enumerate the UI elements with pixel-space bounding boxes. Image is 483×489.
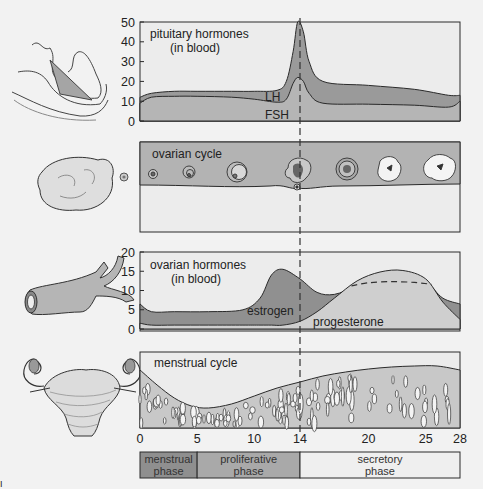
- gland: [139, 395, 141, 405]
- y-tick-label: 10: [121, 95, 135, 109]
- phase-sublabel: phase: [234, 465, 264, 477]
- ovarian-cycle-panel: ovarian cycle: [38, 142, 460, 232]
- gland: [164, 398, 167, 405]
- gland: [341, 387, 344, 406]
- y-tick-label: 5: [128, 303, 135, 317]
- x-tick-label: 28: [453, 432, 467, 446]
- lh-label: LH: [265, 90, 280, 104]
- phase-label: menstrual: [144, 453, 192, 465]
- gland: [250, 407, 255, 414]
- gland: [172, 407, 175, 419]
- phase-menstrual: menstrualphase: [140, 452, 197, 478]
- ovary-icon: [38, 157, 128, 210]
- y-tick-label: 20: [121, 246, 135, 260]
- y-tick-label: 0: [128, 323, 135, 337]
- gland: [370, 387, 374, 393]
- gland: [192, 416, 196, 427]
- gland: [207, 412, 212, 423]
- gland: [180, 402, 185, 414]
- gland: [265, 402, 269, 408]
- gland: [444, 383, 448, 396]
- gland: [399, 397, 402, 412]
- gland: [372, 394, 376, 404]
- x-tick-label: 5: [194, 432, 201, 446]
- gland: [387, 404, 392, 413]
- gland: [276, 409, 279, 421]
- gland: [226, 415, 231, 422]
- gland: [310, 390, 313, 402]
- ovarian-hormones-subtitle: (in blood): [171, 272, 221, 286]
- gland: [258, 416, 263, 428]
- pituitary-subtitle: (in blood): [170, 41, 220, 55]
- gland: [368, 401, 372, 411]
- gland: [273, 405, 276, 416]
- gland: [392, 376, 394, 385]
- corpus-luteum: [378, 157, 401, 182]
- gland: [180, 414, 185, 425]
- gland: [196, 416, 201, 424]
- gland: [326, 403, 329, 417]
- gland: [448, 404, 451, 425]
- gland: [211, 414, 214, 425]
- x-tick-label: 20: [362, 432, 376, 446]
- gland: [432, 395, 437, 414]
- gland: [234, 408, 239, 421]
- ovarian-hormones-title: ovarian hormones: [150, 258, 246, 272]
- gland: [163, 418, 166, 425]
- y-tick-label: 15: [121, 265, 135, 279]
- phase-sublabel: phase: [365, 465, 395, 477]
- y-tick-label: 40: [121, 35, 135, 49]
- phase-label: secretory: [357, 453, 403, 465]
- phase-sublabel: phase: [154, 465, 184, 477]
- gland: [307, 418, 311, 425]
- gland: [316, 402, 320, 410]
- gland: [402, 404, 406, 418]
- gland: [312, 416, 317, 432]
- gland: [140, 418, 143, 429]
- phase-proliferative: proliferativephase: [197, 452, 300, 478]
- gland: [316, 379, 320, 390]
- fsh-label: FSH: [265, 108, 289, 122]
- ovarian-cycle-title: ovarian cycle: [152, 147, 222, 161]
- gland: [349, 413, 354, 423]
- gland: [395, 390, 398, 397]
- progesterone-label: progesterone: [313, 315, 384, 329]
- gland: [249, 413, 253, 420]
- gland: [409, 404, 414, 419]
- gland: [423, 401, 428, 413]
- corpus-luteum-early: [336, 158, 358, 180]
- gland: [260, 397, 263, 407]
- pituitary-gland-icon: [12, 43, 108, 120]
- gland: [337, 380, 340, 387]
- phase-bar: menstrualphaseproliferativephasesecretor…: [140, 452, 460, 478]
- pituitary-title: pituitary hormones: [150, 27, 249, 41]
- pituitary-panel: pituitary hormones (in blood) LH FSH 504…: [12, 16, 460, 129]
- gland: [348, 375, 351, 381]
- gland: [404, 376, 408, 388]
- gland: [279, 389, 283, 403]
- follicle-primary: [183, 166, 195, 178]
- gland: [287, 393, 290, 405]
- blood-vessel-icon: [25, 256, 134, 315]
- y-tick-label: 0: [128, 115, 135, 129]
- follicle-primordial: [149, 170, 158, 179]
- gland: [293, 393, 297, 402]
- y-tick-label: 30: [121, 55, 135, 69]
- corner-mark: I: [0, 479, 3, 489]
- gland: [423, 385, 426, 395]
- x-tick-label: 10: [247, 432, 261, 446]
- gland: [279, 407, 284, 413]
- gland: [285, 403, 288, 416]
- x-tick-label: 0: [137, 432, 144, 446]
- gland: [156, 395, 160, 405]
- ovarian-hormones-panel: ovarian hormones (in blood) estrogen pro…: [25, 246, 460, 337]
- menstrual-cycle-diagram: pituitary hormones (in blood) LH FSH 504…: [0, 0, 483, 489]
- phase-secretory: secretoryphase: [300, 452, 460, 478]
- menstrual-title: menstrual cycle: [154, 356, 238, 370]
- estrogen-label: estrogen: [247, 304, 294, 318]
- x-tick-label: 14: [293, 432, 307, 446]
- gland: [219, 414, 223, 421]
- gland: [353, 377, 357, 392]
- gland: [328, 378, 333, 395]
- uterus-icon: [24, 359, 141, 436]
